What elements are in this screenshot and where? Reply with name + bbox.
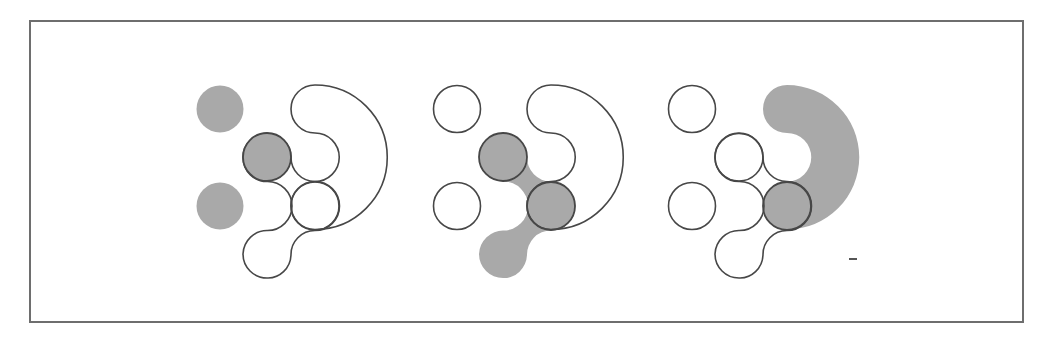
center-circle bbox=[291, 182, 339, 230]
top-left-circle bbox=[669, 86, 716, 133]
bottom-left-circle bbox=[197, 183, 244, 230]
panel-3 bbox=[669, 85, 860, 278]
diagram-canvas bbox=[0, 0, 1062, 338]
top-left-circle bbox=[434, 86, 481, 133]
bottom-left-circle bbox=[669, 183, 716, 230]
panel-1 bbox=[197, 85, 388, 278]
bottom-left-circle bbox=[434, 183, 481, 230]
middle-circle bbox=[715, 133, 763, 181]
panel-2 bbox=[434, 85, 624, 278]
top-left-circle bbox=[197, 86, 244, 133]
middle-circle bbox=[243, 133, 291, 181]
